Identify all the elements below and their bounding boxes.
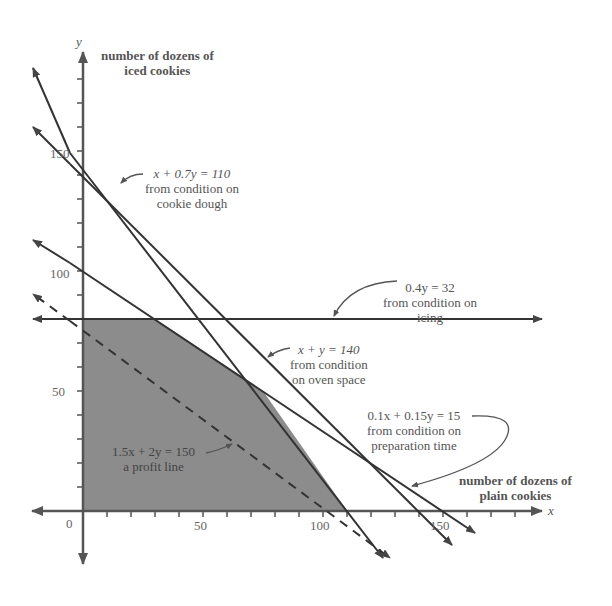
tick-y-50: 50 (52, 384, 65, 400)
y-axis-symbol: y (76, 34, 82, 49)
tick-origin: 0 (66, 516, 73, 532)
oven-note-2: on oven space (290, 372, 368, 387)
tick-y-100: 100 (50, 266, 70, 282)
dough-equation: x + 0.7y = 110 (145, 166, 239, 181)
tick-x-50: 50 (194, 518, 207, 534)
icing-equation: 0.4y = 32 (383, 280, 477, 295)
oven-label: x + y = 140 from condition on oven space (290, 342, 368, 387)
chart-container: y number of dozens of iced cookies numbe… (0, 0, 612, 606)
tick-x-100: 100 (310, 518, 330, 534)
y-axis-title: number of dozens of iced cookies (101, 48, 214, 78)
prep-label: 0.1x + 0.15y = 15 from condition on prep… (367, 408, 461, 453)
prep-note-2: preparation time (367, 438, 461, 453)
y-axis-title-line2: iced cookies (101, 63, 214, 78)
icing-note-2: icing (383, 310, 477, 325)
tick-x-150: 150 (430, 518, 450, 534)
x-axis-title: number of dozens of plain cookies (459, 473, 572, 503)
profit-note: a profit line (112, 459, 195, 474)
dough-note-1: from condition on (145, 181, 239, 196)
x-axis-symbol: x (548, 503, 554, 518)
dough-note-2: cookie dough (145, 196, 239, 211)
x-axis-title-line1: number of dozens of (459, 473, 572, 488)
oven-pointer (268, 348, 290, 357)
icing-label: 0.4y = 32 from condition on icing (383, 280, 477, 325)
y-axis-title-line1: number of dozens of (101, 48, 214, 63)
dough-pointer (121, 174, 143, 183)
profit-equation: 1.5x + 2y = 150 (112, 444, 195, 459)
icing-note-1: from condition on (383, 295, 477, 310)
profit-label: 1.5x + 2y = 150 a profit line (112, 444, 195, 474)
prep-equation: 0.1x + 0.15y = 15 (367, 408, 461, 423)
oven-equation: x + y = 140 (290, 342, 368, 357)
tick-y-150: 150 (50, 146, 70, 162)
chart-svg (0, 0, 612, 606)
oven-note-1: from condition (290, 357, 368, 372)
dough-label: x + 0.7y = 110 from condition on cookie … (145, 166, 239, 211)
x-axis-title-line2: plain cookies (459, 488, 572, 503)
prep-note-1: from condition on (367, 423, 461, 438)
